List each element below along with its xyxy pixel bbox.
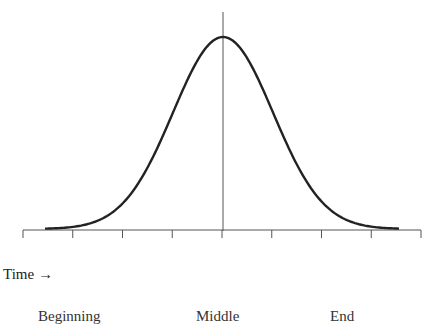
phase-label-beginning: Beginning (38, 308, 101, 325)
x-axis (23, 230, 421, 238)
bell-curve (45, 37, 399, 229)
phase-label-middle: Middle (196, 308, 239, 325)
x-axis-label: Time → (3, 266, 53, 283)
phase-label-end: End (330, 308, 354, 325)
